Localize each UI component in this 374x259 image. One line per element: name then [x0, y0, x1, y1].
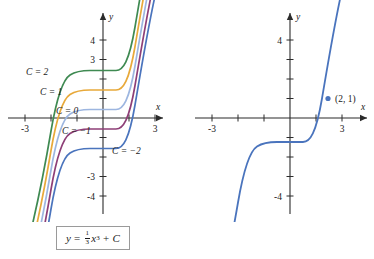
curve-c-1: [25, 0, 155, 222]
x-axis-label-right: x: [360, 102, 366, 112]
y-tick-label-neg4-right: -4: [274, 192, 282, 202]
x-tick-label-neg3-right: -3: [208, 124, 216, 134]
y-tick-label-4-left: 4: [90, 36, 95, 46]
y-tick-label-neg4-left: -4: [87, 192, 95, 202]
curve-label-c-2: C = 2: [26, 67, 48, 77]
y-axis-label-right: y: [295, 12, 301, 22]
eq-left-fraction: 13: [85, 230, 91, 245]
plot-right: -3 3 4 -4 x y (2, 1): [187, 0, 374, 222]
x-tick-label-3-right: 3: [340, 124, 345, 134]
curve-label-c-0: C = 0: [56, 106, 78, 116]
y-tick-label-3-left: 3: [90, 55, 95, 65]
curve-particular-solution: [212, 0, 342, 222]
panel-left: -3 3 4 3 -3 -4 x y C = 2 C = 1 C = 0 C =: [0, 0, 187, 259]
y-tick-label-neg3-left: -3: [87, 172, 95, 182]
eq-left-frac-num: 1: [85, 230, 91, 237]
eq-left-equals: =: [74, 233, 80, 244]
x-axis-label-left: x: [155, 102, 161, 112]
eq-left-const: C: [112, 233, 120, 244]
eq-left-lhs: y: [66, 233, 71, 244]
point-label-2-1: (2, 1): [335, 94, 356, 105]
equation-left: y=13x3+C: [66, 230, 120, 245]
figure-container: -3 3 4 3 -3 -4 x y C = 2 C = 1 C = 0 C =: [0, 0, 374, 259]
x-tick-label-3-left: 3: [153, 124, 158, 134]
y-tick-label-4-right: 4: [277, 36, 282, 46]
curve-label-c-1: C = 1: [40, 87, 62, 97]
panel-right: -3 3 4 -4 x y (2, 1) y=13x3−53: [187, 0, 374, 259]
curve-label-c-neg2: C = −2: [112, 146, 141, 156]
y-axis-label-left: y: [108, 12, 114, 22]
plot-left: -3 3 4 3 -3 -4 x y C = 2 C = 1 C = 0 C =: [0, 0, 187, 222]
point-marker-2-1: [325, 96, 330, 101]
caption-box-left: y=13x3+C: [56, 226, 130, 250]
eq-left-plus: +: [103, 233, 109, 244]
curve-label-c-neg1: C = −1: [62, 126, 91, 136]
eq-left-frac-den: 3: [85, 238, 91, 246]
x-tick-label-neg3-left: -3: [21, 124, 29, 134]
